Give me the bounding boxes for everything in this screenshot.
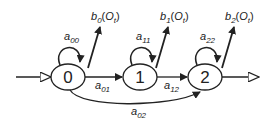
state-0-label: 0 [63,68,72,87]
transition-label-0-2: a02 [131,105,147,120]
emission-label-0: b0(Ot) [91,10,120,25]
emission-arrow-0 [88,27,100,68]
transition-0-2 [70,90,200,104]
emission-arrow-1 [156,27,168,68]
transition-label-0-1: a01 [95,79,110,94]
self-loop-1 [131,48,152,65]
state-2: 2 [188,64,222,90]
self-loop-label-2: a22 [200,30,216,45]
self-loop-label-1: a11 [136,30,150,45]
state-1-label: 1 [135,68,144,87]
self-loop-2 [196,48,217,65]
state-1: 1 [123,64,157,90]
state-0: 0 [51,64,85,90]
emission-label-2: b2(Ot) [225,10,254,25]
emission-arrow-2 [222,27,234,68]
transition-label-1-2: a12 [164,79,180,94]
state-2-label: 2 [200,68,209,87]
hmm-diagram: 0 1 2 b0(Ot) b1(Ot) b2(Ot) a00 a11 a22 a… [0,0,270,123]
self-loop-label-0: a00 [64,30,80,45]
self-loop-0 [59,48,80,65]
emission-label-1: b1(Ot) [160,10,189,25]
